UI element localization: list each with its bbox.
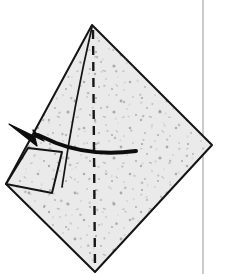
origami-diagram-canvas	[0, 0, 228, 274]
origami-figure	[0, 0, 228, 274]
